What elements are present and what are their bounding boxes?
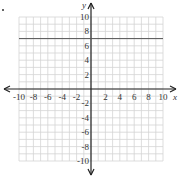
coordinate-plane: -10-8-6-4-2246810108642-2-4-6-8-10xy [0, 0, 180, 177]
x-tick-label: -8 [30, 92, 38, 102]
y-tick-label: -4 [82, 113, 90, 123]
y-axis-label: y [81, 0, 86, 10]
x-tick-label: -2 [73, 92, 81, 102]
x-tick-label: -10 [13, 92, 25, 102]
y-tick-label: -2 [82, 98, 90, 108]
x-tick-label: 6 [132, 92, 137, 102]
x-tick-label: -6 [44, 92, 52, 102]
y-tick-label: 10 [80, 12, 90, 22]
x-axis-label: x [172, 92, 177, 102]
x-tick-label: 10 [159, 92, 169, 102]
x-tick-label: 4 [118, 92, 123, 102]
y-tick-label: 8 [85, 26, 90, 36]
y-tick-label: 2 [85, 70, 90, 80]
y-tick-label: 6 [85, 41, 90, 51]
x-tick-label: 8 [146, 92, 151, 102]
y-tick-label: -6 [82, 127, 90, 137]
y-tick-label: -10 [77, 156, 89, 166]
x-tick-label: -4 [58, 92, 66, 102]
bullet-dot [2, 9, 4, 11]
y-tick-label: 4 [85, 55, 90, 65]
x-tick-label: 2 [103, 92, 108, 102]
y-tick-label: -8 [82, 142, 90, 152]
